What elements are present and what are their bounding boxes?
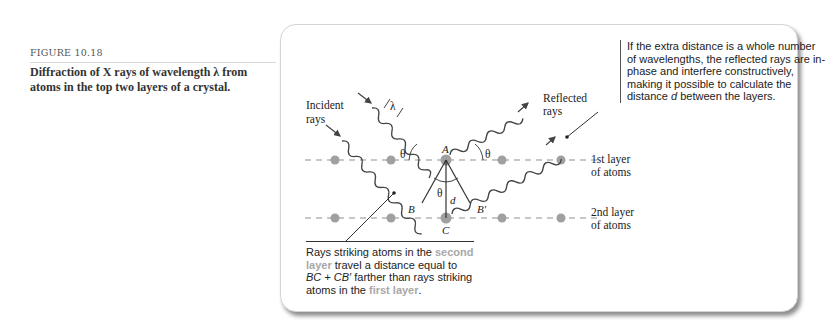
reflected-arrow-2 — [546, 137, 555, 145]
incident-arrow-2 — [326, 125, 340, 136]
constructive-interference-note: If the extra distance is a whole number … — [620, 40, 827, 103]
lambda-label: λ — [390, 100, 396, 112]
incident-arrow-1 — [358, 93, 371, 103]
right-callout-line — [567, 112, 598, 137]
theta-arc-left — [409, 144, 417, 160]
path-difference-note: Rays striking atoms in the second layer … — [306, 241, 474, 296]
point-b-label: B — [408, 203, 415, 215]
layer1-label-line2: of atoms — [591, 166, 631, 178]
note-bottom-text-4: . — [419, 284, 422, 296]
path-difference-expression: BC + CB′ — [306, 271, 351, 283]
incident-rays-label-line1: Incident — [306, 99, 344, 111]
reflected-ray-2 — [450, 138, 563, 235]
incident-ray-1 — [360, 106, 443, 178]
layer2-label-line2: of atoms — [591, 219, 631, 231]
layer1-label-line1: 1st layer — [591, 153, 630, 166]
point-b-prime-label: B′ — [477, 203, 487, 215]
incident-ray-2 — [326, 139, 439, 236]
theta-arc-right — [475, 144, 483, 160]
layer2-label-line1: 2nd layer — [591, 206, 634, 219]
bottom-callout-dot — [392, 191, 396, 195]
reflected-arrow-1 — [518, 103, 528, 112]
right-callout-dot — [565, 135, 569, 139]
distance-d-label: d — [450, 194, 456, 206]
note-right-text-2: between the layers. — [677, 90, 775, 102]
note-bottom-text-2: travel a distance equal to — [332, 259, 457, 271]
theta-label-center: θ — [437, 187, 443, 199]
highlight-first-layer: first layer — [369, 284, 419, 296]
incident-rays-label-line2: rays — [306, 113, 326, 126]
theta-label-right: θ — [485, 148, 491, 160]
note-bottom-text-1: Rays striking atoms in the — [306, 246, 435, 258]
reflected-rays-label-line2: rays — [543, 105, 563, 118]
point-c-label: C — [442, 224, 450, 236]
reflected-rays-label-line1: Reflected — [543, 92, 587, 104]
lambda-tick-2 — [397, 108, 403, 117]
point-a-label: A — [441, 143, 449, 155]
theta-label-left: θ — [400, 148, 406, 160]
